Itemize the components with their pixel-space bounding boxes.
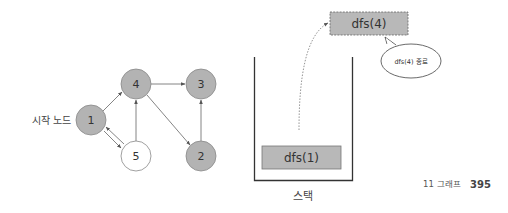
page-number: 395 (470, 179, 491, 190)
node-label: 1 (88, 114, 95, 127)
pop-arrow (299, 23, 328, 130)
popped-frame-dfs-4: dfs(4) (330, 12, 408, 35)
call-stack: dfs(1) dfs(4) dfs(4) 종료 스택 (255, 12, 442, 203)
edge-1-4 (103, 92, 122, 111)
popped-frame-label: dfs(4) (351, 17, 386, 31)
stack-frame-dfs-1: dfs(1) (262, 146, 341, 169)
page-footer: 11 그래프 395 (423, 179, 491, 190)
graph-edges (103, 84, 201, 148)
stack-label: 스택 (293, 190, 313, 203)
graph-node-1: 1 (76, 105, 106, 135)
dfs-diagram: 시작 노드 1 4 3 5 2 (0, 0, 508, 213)
graph-node-2: 2 (186, 141, 216, 171)
chapter-label: 11 그래프 (423, 179, 461, 189)
node-label: 5 (133, 150, 140, 163)
graph-node-4: 4 (121, 69, 151, 99)
start-node-label: 시작 노드 (32, 115, 71, 126)
edge-4-2 (147, 95, 190, 145)
graph-node-5: 5 (121, 141, 151, 171)
graph-node-3: 3 (186, 69, 216, 99)
callout-text: dfs(4) 종료 (394, 58, 427, 66)
stack-frame-label: dfs(1) (284, 151, 319, 165)
node-label: 4 (133, 78, 140, 91)
node-label: 3 (198, 78, 205, 91)
graph: 시작 노드 1 4 3 5 2 (32, 69, 216, 171)
callout-bubble: dfs(4) 종료 (381, 37, 441, 78)
node-label: 2 (198, 150, 205, 163)
